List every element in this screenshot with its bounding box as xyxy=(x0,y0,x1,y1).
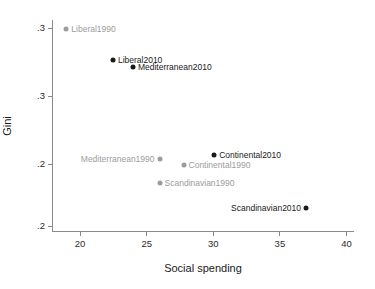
data-point-label-scandinavian1990: Scandinavian1990 xyxy=(165,178,235,188)
data-point-mediterranean1990[interactable] xyxy=(157,156,162,161)
y-axis-tick: .2 xyxy=(48,164,53,165)
data-point-liberal1990[interactable] xyxy=(64,27,69,32)
x-axis-tick: 30 xyxy=(213,231,214,236)
y-axis-tick-label: .3 xyxy=(37,21,45,34)
x-axis-title: Social spending xyxy=(52,262,354,274)
data-point-mediterranean2010[interactable] xyxy=(130,64,135,69)
scatter-chart: .3.3.2.22025303540Liberal1990Liberal2010… xyxy=(0,0,375,289)
data-point-label-mediterranean1990: Mediterranean1990 xyxy=(81,154,155,164)
y-axis-tick: .3 xyxy=(48,96,53,97)
data-point-continental1990[interactable] xyxy=(181,162,186,167)
data-point-liberal2010[interactable] xyxy=(110,57,115,62)
y-axis-tick: .3 xyxy=(48,28,53,29)
x-axis-tick: 20 xyxy=(80,231,81,236)
data-point-scandinavian1990[interactable] xyxy=(157,180,162,185)
y-axis-title: Gini xyxy=(0,20,14,232)
y-axis-tick: .2 xyxy=(48,226,53,227)
y-axis-tick-label: .3 xyxy=(37,89,45,102)
data-point-scandinavian2010[interactable] xyxy=(304,206,309,211)
y-axis-title-text: Gini xyxy=(1,116,13,136)
y-axis-tick-label: .2 xyxy=(37,219,45,232)
data-point-label-continental1990: Continental1990 xyxy=(189,160,251,170)
x-axis-tick: 25 xyxy=(146,231,147,236)
data-point-label-continental2010: Continental2010 xyxy=(219,150,281,160)
x-axis-tick-label: 30 xyxy=(208,238,219,249)
plot-area: .3.3.2.22025303540Liberal1990Liberal2010… xyxy=(52,20,354,232)
x-axis-tick-label: 40 xyxy=(341,238,352,249)
data-point-label-scandinavian2010: Scandinavian2010 xyxy=(231,203,301,213)
data-point-label-liberal1990: Liberal1990 xyxy=(71,24,115,34)
y-axis-tick-label: .2 xyxy=(37,157,45,170)
x-axis-tick-label: 25 xyxy=(141,238,152,249)
x-axis-tick: 40 xyxy=(346,231,347,236)
data-point-continental2010[interactable] xyxy=(212,153,217,158)
x-axis-tick: 35 xyxy=(279,231,280,236)
x-axis-tick-label: 20 xyxy=(75,238,86,249)
data-point-label-mediterranean2010: Mediterranean2010 xyxy=(138,62,212,72)
x-axis-tick-label: 35 xyxy=(275,238,286,249)
